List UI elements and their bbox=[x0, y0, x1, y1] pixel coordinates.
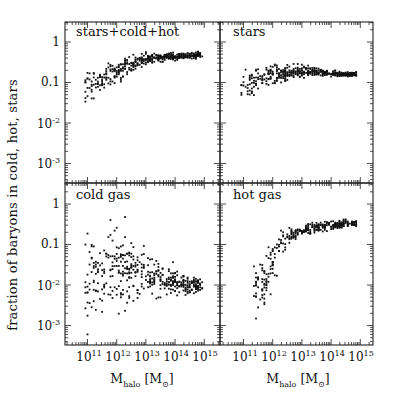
data-point bbox=[266, 273, 268, 275]
data-point bbox=[153, 264, 155, 266]
data-point bbox=[151, 258, 153, 260]
data-point bbox=[139, 64, 141, 66]
data-point bbox=[89, 283, 91, 285]
data-point bbox=[139, 261, 141, 263]
data-point bbox=[330, 221, 332, 223]
data-point bbox=[103, 83, 105, 85]
data-point bbox=[155, 270, 157, 272]
data-point bbox=[197, 51, 199, 53]
data-point bbox=[103, 269, 105, 271]
data-point bbox=[282, 73, 284, 75]
data-point bbox=[274, 82, 276, 84]
data-point bbox=[193, 282, 195, 284]
data-point bbox=[301, 72, 303, 74]
data-point bbox=[91, 97, 93, 99]
data-point bbox=[176, 274, 178, 276]
data-point bbox=[199, 53, 201, 55]
data-point bbox=[145, 53, 147, 55]
data-point bbox=[143, 266, 145, 268]
data-point bbox=[178, 291, 180, 293]
data-point bbox=[347, 222, 349, 224]
data-point bbox=[324, 229, 326, 231]
xtick-left-1e13: 1013 bbox=[134, 349, 159, 364]
data-point bbox=[164, 282, 166, 284]
data-point bbox=[147, 55, 149, 57]
data-point bbox=[174, 290, 176, 292]
data-point bbox=[176, 58, 178, 60]
data-point bbox=[101, 289, 103, 291]
data-point bbox=[263, 287, 265, 289]
data-point bbox=[135, 61, 137, 63]
data-point bbox=[241, 92, 243, 94]
data-point bbox=[95, 264, 97, 266]
data-point bbox=[185, 287, 187, 289]
data-point bbox=[185, 294, 187, 296]
data-point bbox=[349, 72, 351, 74]
data-point bbox=[266, 287, 268, 289]
data-point bbox=[126, 253, 128, 255]
data-point bbox=[195, 54, 197, 56]
data-point bbox=[257, 306, 259, 308]
data-point bbox=[147, 274, 149, 276]
data-point bbox=[249, 83, 251, 85]
data-point bbox=[180, 281, 182, 283]
data-point bbox=[191, 55, 193, 57]
data-point bbox=[261, 281, 263, 283]
data-point bbox=[97, 77, 99, 79]
data-point bbox=[120, 77, 122, 79]
data-point bbox=[160, 276, 162, 278]
data-point bbox=[311, 67, 313, 69]
data-point bbox=[297, 74, 299, 76]
data-point bbox=[149, 259, 151, 261]
data-point bbox=[168, 281, 170, 283]
data-point bbox=[309, 71, 311, 73]
data-point bbox=[299, 73, 301, 75]
data-point bbox=[128, 276, 130, 278]
data-point bbox=[316, 70, 318, 72]
data-point bbox=[268, 70, 270, 72]
data-point bbox=[110, 276, 112, 278]
data-point bbox=[353, 224, 355, 226]
data-point bbox=[160, 297, 162, 299]
data-point bbox=[187, 287, 189, 289]
data-point bbox=[178, 286, 180, 288]
data-point bbox=[255, 318, 257, 320]
data-point bbox=[318, 226, 320, 228]
data-point bbox=[293, 75, 295, 77]
data-point bbox=[243, 85, 245, 87]
data-point bbox=[135, 272, 137, 274]
data-point bbox=[93, 84, 95, 86]
data-point bbox=[284, 77, 286, 79]
data-point bbox=[270, 66, 272, 68]
data-point bbox=[147, 271, 149, 273]
data-point bbox=[288, 75, 290, 77]
data-point bbox=[122, 70, 124, 72]
data-point bbox=[147, 264, 149, 266]
data-point bbox=[99, 298, 101, 300]
data-point bbox=[276, 275, 278, 277]
data-point bbox=[174, 276, 176, 278]
data-point bbox=[263, 73, 265, 75]
data-point bbox=[89, 289, 91, 291]
data-point bbox=[135, 262, 137, 264]
data-point bbox=[162, 56, 164, 58]
data-point bbox=[330, 226, 332, 228]
data-point bbox=[168, 288, 170, 290]
data-point bbox=[162, 281, 164, 283]
data-point bbox=[93, 281, 95, 283]
data-point bbox=[286, 64, 288, 66]
data-point bbox=[324, 225, 326, 227]
data-point bbox=[274, 80, 276, 82]
data-point bbox=[351, 73, 353, 75]
data-point bbox=[318, 68, 320, 70]
data-point bbox=[95, 309, 97, 311]
data-point bbox=[255, 70, 257, 72]
data-point bbox=[110, 69, 112, 71]
data-point bbox=[353, 222, 355, 224]
data-point bbox=[95, 79, 97, 81]
data-point bbox=[162, 283, 164, 285]
data-point bbox=[120, 294, 122, 296]
data-point bbox=[255, 77, 257, 79]
data-point bbox=[276, 244, 278, 246]
data-point bbox=[316, 226, 318, 228]
